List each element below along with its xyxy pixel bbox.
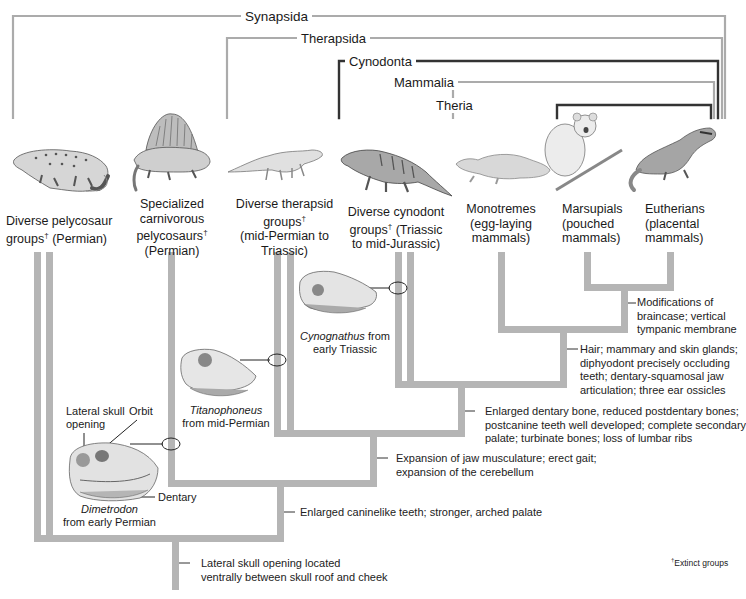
eutherian-illustration — [631, 128, 716, 190]
trait-sphenacodont: Enlarged caninelike teeth; stronger, arc… — [300, 506, 542, 520]
trait-cynodonta: Enlarged dentary bone, reduced postdenta… — [485, 405, 746, 446]
annotation-lateral-skull-opening: Lateral skull opening — [66, 405, 125, 431]
taxon-cynodonts: Diverse cynodont groups† (Triassic to mi… — [346, 205, 446, 252]
annotation-orbit: Orbit — [129, 405, 153, 418]
trait-synapsida: Lateral skull opening located ventrally … — [201, 557, 388, 584]
caption-titanophoneus: Titanophoneus from mid-Permian — [180, 404, 272, 430]
taxon-therapsids: Diverse therapsid groups† (mid-Permian t… — [232, 197, 337, 258]
taxon-pelycosaurs: Diverse pelycosaur groups† (Permian) — [6, 214, 106, 246]
bracket-mammalia — [453, 82, 714, 118]
dimetrodon-illustration — [134, 114, 210, 190]
caption-cynognathus: Cynognathus from early Triassic — [300, 330, 390, 356]
annotation-dentary: Dentary — [158, 491, 197, 504]
taxon-specialized-pelycosaurs: Specialized carnivorous pelycosaurs† (Pe… — [122, 197, 222, 258]
platypus-illustration — [456, 154, 550, 184]
clade-label-theria: Theria — [432, 98, 477, 113]
clade-label-mammalia: Mammalia — [390, 75, 458, 90]
cynodont-illustration — [341, 150, 452, 196]
caption-dimetrodon: Dimetrodon from early Permian — [62, 503, 157, 529]
trait-therapsida: Expansion of jaw musculature; erect gait… — [396, 452, 597, 479]
therapsid-illustration — [228, 150, 322, 180]
titanophoneus-skull — [181, 349, 256, 395]
trait-theria: Modifications of braincase; vertical tym… — [637, 296, 737, 337]
marsupial-illustration — [545, 113, 622, 190]
footnote-extinct-groups: †Extinct groups — [671, 557, 728, 568]
pelycosaur-illustration — [13, 150, 108, 192]
taxon-marsupials: Marsupials (pouched mammals) — [562, 202, 622, 246]
taxon-monotremes: Monotremes (egg-laying mammals) — [456, 202, 546, 246]
clade-label-cynodonta: Cynodonta — [345, 54, 416, 69]
taxon-eutherians: Eutherians (placental mammals) — [645, 202, 705, 246]
dimetrodon-skull — [69, 443, 158, 501]
trait-mammalia: Hair; mammary and skin glands; diphyodon… — [580, 343, 738, 397]
clade-label-therapsida: Therapsida — [297, 31, 370, 46]
cynognathus-skull — [299, 271, 376, 313]
clade-label-synapsida: Synapsida — [241, 9, 312, 24]
